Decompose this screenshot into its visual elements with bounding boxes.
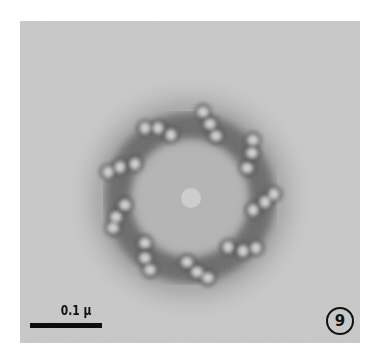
scale-bar xyxy=(30,323,102,328)
figure-number: 9 xyxy=(335,312,345,330)
figure-number-badge: 9 xyxy=(326,307,354,335)
scale-bar-label: 0.1 μ xyxy=(50,302,103,318)
micrograph-image xyxy=(20,21,360,343)
micrograph-frame: 0.1 μ 9 xyxy=(20,21,360,343)
